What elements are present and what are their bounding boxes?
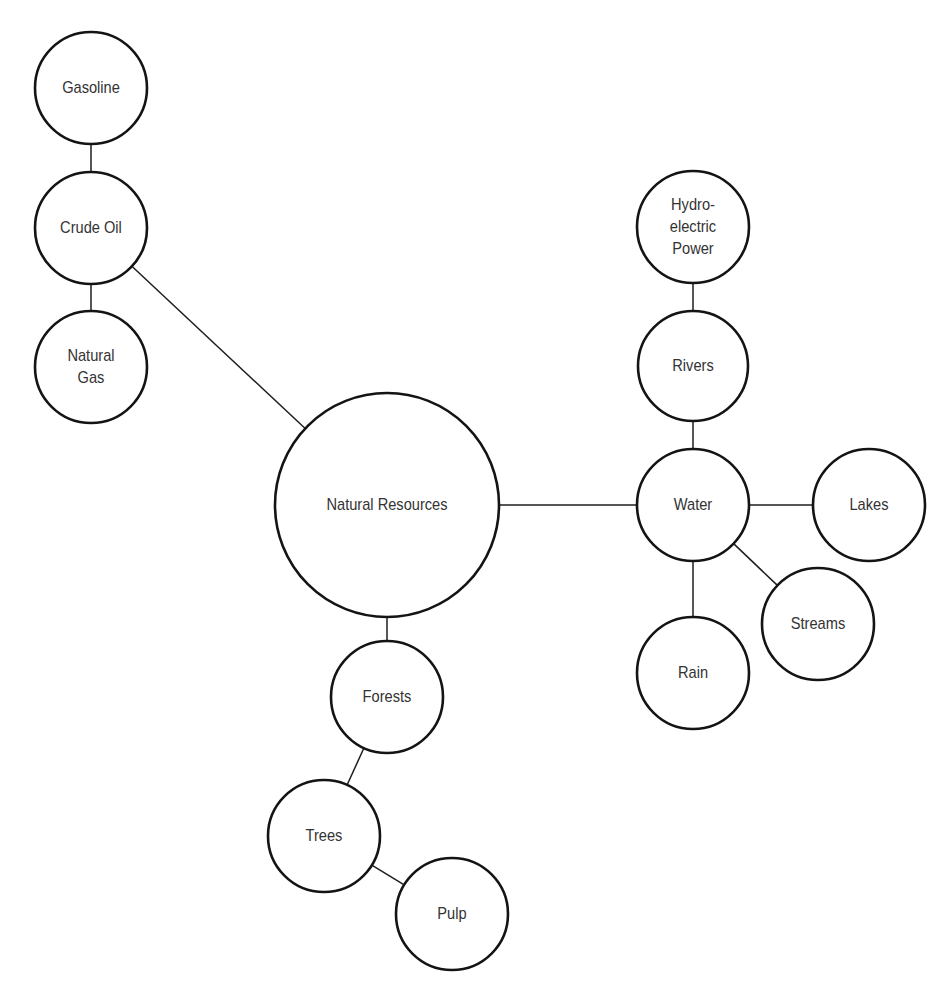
node-label-crude-oil: Crude Oil xyxy=(43,172,139,284)
node-label-streams: Streams xyxy=(770,568,866,680)
node-label-forests: Forests xyxy=(339,641,435,753)
node-label-natural-resources: Natural Resources xyxy=(291,393,484,617)
node-label-trees: Trees xyxy=(276,780,372,892)
node-label-natural-gas: Natural Gas xyxy=(43,311,139,423)
node-label-gasoline: Gasoline xyxy=(43,32,139,144)
node-label-rivers: Rivers xyxy=(646,311,741,421)
node-label-rain: Rain xyxy=(645,617,741,729)
node-label-lakes: Lakes xyxy=(821,449,917,561)
node-label-water: Water xyxy=(645,449,741,561)
edge-crude-oil-to-natural-resources xyxy=(132,266,305,428)
edge-trees-to-pulp xyxy=(372,865,404,885)
concept-map: Natural ResourcesCrude OilGasolineNatura… xyxy=(0,0,949,996)
node-label-hydroelectric-power: Hydro- electric Power xyxy=(645,171,741,283)
node-label-pulp: Pulp xyxy=(404,858,500,970)
